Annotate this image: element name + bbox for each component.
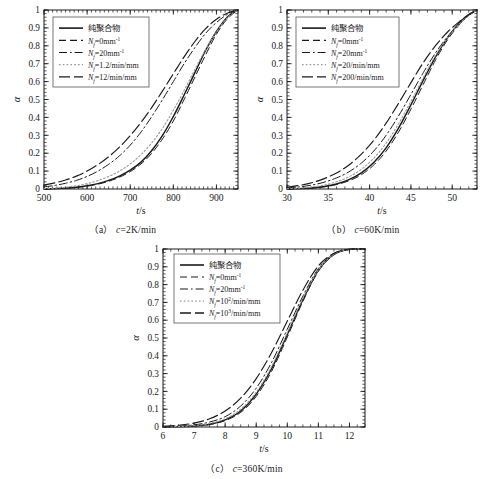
svg-text:0.9: 0.9: [28, 23, 40, 33]
chart-panel-c: 00.10.20.30.40.50.60.70.80.916789101112α…: [113, 240, 375, 479]
svg-text:500: 500: [37, 192, 52, 203]
svg-text:0.9: 0.9: [271, 23, 283, 33]
svg-text:0.9: 0.9: [147, 262, 159, 272]
svg-text:0.8: 0.8: [147, 280, 159, 290]
caption-b-value: =60K/min: [359, 225, 400, 235]
svg-text:1: 1: [35, 5, 40, 15]
svg-text:1: 1: [154, 244, 159, 254]
plot-area-b: 00.10.20.30.40.50.60.70.80.913035404550α…: [243, 0, 483, 240]
svg-text:30: 30: [282, 192, 292, 203]
svg-text:600: 600: [80, 192, 95, 203]
svg-text:0.5: 0.5: [28, 95, 40, 105]
svg-text:0.4: 0.4: [28, 113, 40, 123]
svg-text:0.6: 0.6: [147, 315, 159, 325]
svg-text:11: 11: [314, 430, 323, 441]
svg-text:8: 8: [223, 430, 228, 441]
caption-c: （c） c=360K/min: [113, 461, 375, 475]
chart-panel-b: 00.10.20.30.40.50.60.70.80.913035404550α…: [243, 0, 483, 240]
chart-svg-a: 00.10.20.30.40.50.60.70.80.9150060070080…: [0, 0, 245, 222]
svg-text:45: 45: [406, 192, 416, 203]
svg-text:0.7: 0.7: [147, 298, 159, 308]
svg-text:0.3: 0.3: [147, 369, 159, 379]
svg-text:0.3: 0.3: [271, 131, 283, 141]
svg-text:0.2: 0.2: [271, 148, 283, 158]
svg-text:10: 10: [283, 430, 293, 441]
svg-text:0.4: 0.4: [147, 351, 159, 361]
caption-b-index: （b）: [326, 225, 351, 235]
caption-b: （b） c=60K/min: [243, 222, 483, 236]
svg-text:纯聚合物: 纯聚合物: [331, 23, 363, 33]
svg-text:0.6: 0.6: [271, 77, 283, 87]
chart-panel-a: 00.10.20.30.40.50.60.70.80.9150060070080…: [0, 0, 245, 240]
svg-text:0.2: 0.2: [147, 387, 159, 397]
svg-text:12: 12: [345, 430, 355, 441]
svg-text:0.1: 0.1: [271, 166, 283, 176]
svg-text:0.4: 0.4: [271, 113, 283, 123]
svg-text:0.1: 0.1: [28, 166, 40, 176]
svg-text:1: 1: [278, 5, 283, 15]
plot-area-c: 00.10.20.30.40.50.60.70.80.916789101112α…: [113, 240, 375, 479]
svg-text:35: 35: [324, 192, 334, 203]
svg-text:9: 9: [254, 430, 259, 441]
caption-c-index: （c）: [205, 464, 230, 474]
chart-svg-b: 00.10.20.30.40.50.60.70.80.913035404550α…: [243, 0, 483, 222]
caption-a: （a） c=2K/min: [0, 222, 245, 236]
svg-text:0.5: 0.5: [147, 333, 159, 343]
caption-c-value: =360K/min: [237, 464, 283, 474]
svg-text:纯聚合物: 纯聚合物: [209, 260, 241, 270]
svg-text:纯聚合物: 纯聚合物: [88, 23, 120, 33]
svg-text:6: 6: [161, 430, 166, 441]
svg-text:0.1: 0.1: [147, 404, 159, 414]
svg-text:t/s: t/s: [377, 205, 387, 216]
svg-text:7: 7: [192, 430, 197, 441]
svg-text:0.8: 0.8: [271, 41, 283, 51]
caption-a-value: =2K/min: [121, 225, 157, 235]
caption-a-index: （a）: [89, 225, 114, 235]
svg-text:0.7: 0.7: [271, 59, 283, 69]
svg-text:0.5: 0.5: [271, 95, 283, 105]
svg-text:0.6: 0.6: [28, 77, 40, 87]
svg-text:α: α: [11, 96, 22, 102]
svg-text:50: 50: [447, 192, 457, 203]
svg-text:0.3: 0.3: [28, 131, 40, 141]
svg-text:0: 0: [154, 422, 159, 432]
svg-text:0.2: 0.2: [28, 148, 40, 158]
svg-text:t/s: t/s: [259, 443, 269, 454]
svg-text:0.8: 0.8: [28, 41, 40, 51]
chart-svg-c: 00.10.20.30.40.50.60.70.80.916789101112α…: [113, 240, 375, 461]
svg-text:t/s: t/s: [136, 205, 146, 216]
plot-area-a: 00.10.20.30.40.50.60.70.80.9150060070080…: [0, 0, 245, 240]
svg-text:0.7: 0.7: [28, 59, 40, 69]
svg-text:α: α: [130, 335, 141, 341]
svg-text:800: 800: [166, 192, 181, 203]
svg-text:700: 700: [123, 192, 138, 203]
svg-text:40: 40: [365, 192, 375, 203]
svg-text:α: α: [254, 96, 265, 102]
svg-text:900: 900: [209, 192, 224, 203]
